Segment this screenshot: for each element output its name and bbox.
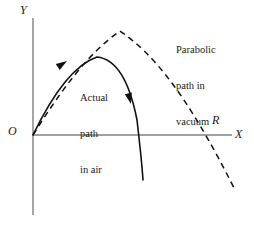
air-annotation-line-2: path <box>80 128 108 140</box>
air-annotation-line-1: Actual <box>80 92 108 104</box>
projectile-trajectory-figure: Y X O R Parabolic path in vacuum Actual … <box>0 0 254 227</box>
x-axis-label: X <box>235 128 242 140</box>
vacuum-path-annotation: Parabolic path in vacuum <box>176 20 216 152</box>
vacuum-annotation-line-3: vacuum <box>176 116 216 128</box>
air-annotation-line-3: in air <box>80 164 108 176</box>
origin-label: O <box>8 125 17 137</box>
air-path-annotation: Actual path in air <box>80 68 108 200</box>
direction-arrow-ascending <box>56 58 69 70</box>
vacuum-annotation-line-1: Parabolic <box>176 44 216 56</box>
vacuum-annotation-line-2: path in <box>176 80 216 92</box>
y-axis-label: Y <box>20 4 27 16</box>
